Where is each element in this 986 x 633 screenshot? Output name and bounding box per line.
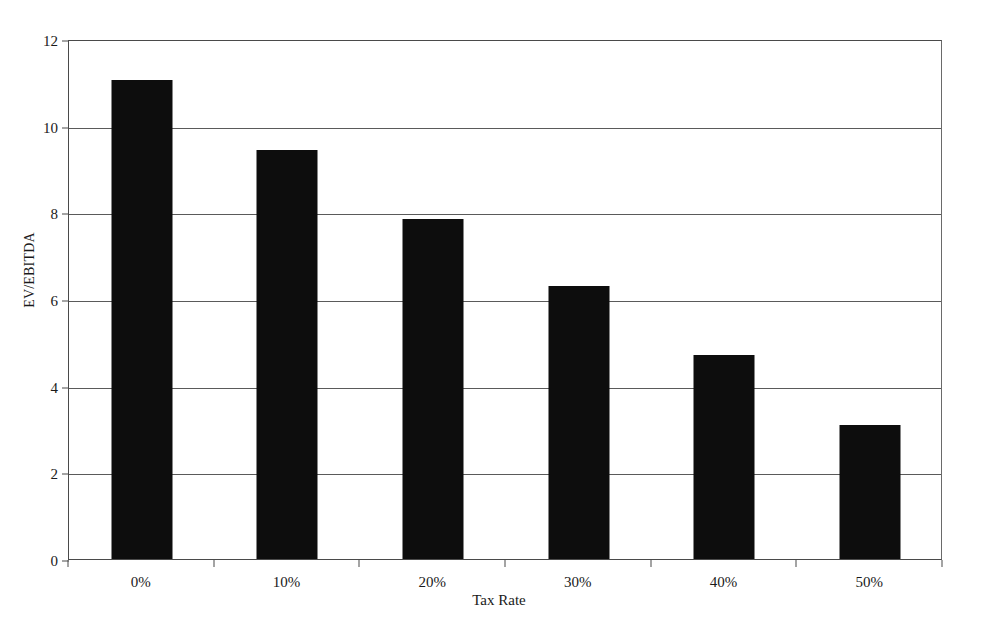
x-tick-mark: [359, 560, 360, 567]
x-tick-mark: [213, 560, 214, 567]
bar: [840, 425, 901, 559]
bar: [548, 286, 609, 559]
y-tick-label: 12: [43, 33, 58, 50]
y-tick-label: 6: [51, 293, 59, 310]
y-tick-label: 0: [51, 553, 59, 570]
y-tick-mark: [62, 127, 69, 128]
x-axis-title-text: Tax Rate: [472, 592, 526, 609]
y-tick-label: 8: [51, 206, 59, 223]
bar: [257, 150, 318, 560]
x-tick-label: 0%: [131, 574, 151, 591]
x-tick-mark-wrap: [359, 560, 360, 567]
x-axis-title: Tax Rate: [0, 592, 986, 609]
y-axis-title: EV/EBITDA: [22, 210, 38, 330]
x-tick-label: 10%: [273, 574, 301, 591]
bar-slot: [215, 41, 361, 559]
x-tick-mark: [796, 560, 797, 567]
x-tick-label: 30%: [564, 574, 592, 591]
bar-slot: [69, 41, 215, 559]
bar-slot: [652, 41, 798, 559]
bar-slot: [797, 41, 943, 559]
x-tick-mark-wrap: [796, 560, 797, 567]
bar: [694, 355, 755, 559]
x-tick-mark: [650, 560, 651, 567]
x-tick-mark-wrap: [213, 560, 214, 567]
plot-area: 024681012: [68, 40, 942, 560]
y-tick-label: 2: [51, 466, 59, 483]
x-tick-mark: [68, 560, 69, 567]
x-tick-mark-wrap: [942, 560, 943, 567]
x-tick-label: 50%: [855, 574, 883, 591]
y-tick-label: 10: [43, 119, 58, 136]
bar: [111, 80, 172, 559]
y-tick-label: 4: [51, 379, 59, 396]
x-tick-mark-wrap: [505, 560, 506, 567]
y-tick-mark: [62, 387, 69, 388]
x-tick-mark-wrap: [68, 560, 69, 567]
bar-slot: [360, 41, 506, 559]
x-tick-label: 40%: [710, 574, 738, 591]
y-tick-mark: [62, 301, 69, 302]
x-tick-mark: [942, 560, 943, 567]
y-tick-mark: [62, 41, 69, 42]
x-tick-mark-wrap: [650, 560, 651, 567]
x-tick-label: 20%: [418, 574, 446, 591]
bar-slot: [506, 41, 652, 559]
bar-chart: EV/EBITDA 024681012 0%10%20%30%40%50% Ta…: [0, 0, 986, 633]
y-tick-mark: [62, 214, 69, 215]
bar: [403, 219, 464, 559]
y-tick-mark: [62, 474, 69, 475]
x-tick-mark: [505, 560, 506, 567]
bars: [69, 41, 941, 559]
